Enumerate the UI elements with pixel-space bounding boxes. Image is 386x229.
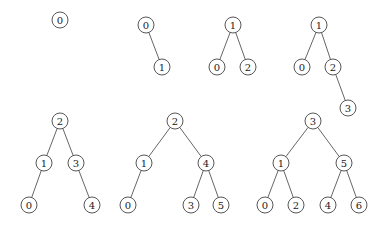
node-1: 1: [311, 17, 327, 33]
node-label: 2: [57, 116, 63, 127]
tree-6: 214035: [120, 113, 229, 213]
node-1: 1: [36, 155, 52, 171]
node-3: 3: [183, 197, 199, 213]
edge-1-0: [131, 170, 141, 197]
node-0: 0: [52, 12, 68, 28]
edge-4-3: [194, 171, 204, 198]
edge-1-0: [305, 32, 316, 59]
node-label: 4: [89, 200, 95, 211]
edge-0-1: [149, 32, 159, 59]
node-2: 2: [325, 59, 341, 75]
edge-2-1: [47, 128, 57, 155]
tree-5: 21304: [21, 113, 100, 213]
edge-2-1: [149, 127, 170, 156]
edge-3-1: [286, 127, 308, 156]
node-label: 1: [159, 62, 165, 73]
node-label: 2: [245, 62, 251, 73]
node-3: 3: [68, 155, 84, 171]
edge-3-4: [79, 170, 89, 197]
edge-1-0: [32, 171, 42, 198]
node-label: 3: [188, 200, 194, 211]
node-label: 3: [73, 158, 79, 169]
node-label: 2: [330, 62, 336, 73]
edge-2-3: [336, 75, 346, 101]
node-2: 2: [288, 197, 304, 213]
node-4: 4: [320, 197, 336, 213]
node-label: 6: [356, 200, 362, 211]
edge-5-4: [331, 170, 341, 197]
node-label: 0: [26, 200, 32, 211]
node-label: 0: [262, 200, 268, 211]
edge-1-0: [268, 170, 278, 197]
node-label: 1: [230, 20, 236, 31]
node-label: 0: [299, 62, 305, 73]
node-1: 1: [154, 59, 170, 75]
tree-diagram: 0011021023213042140353150246: [0, 0, 386, 229]
edge-3-5: [318, 127, 339, 156]
node-2: 2: [240, 59, 256, 75]
node-label: 4: [325, 200, 331, 211]
node-label: 1: [141, 158, 147, 169]
tree-2: 01: [138, 17, 170, 75]
edge-1-2: [284, 171, 294, 198]
edge-4-5: [209, 171, 219, 198]
node-label: 5: [341, 158, 347, 169]
edge-1-0: [220, 32, 230, 59]
node-3: 3: [305, 113, 321, 129]
node-0: 0: [257, 197, 273, 213]
tree-3: 102: [209, 17, 256, 75]
node-label: 1: [41, 158, 47, 169]
tree-7: 3150246: [257, 113, 367, 213]
tree-1: 0: [52, 12, 68, 28]
node-label: 0: [57, 15, 63, 26]
edge-5-6: [347, 171, 357, 198]
edge-1-2: [236, 33, 246, 60]
node-2: 2: [167, 113, 183, 129]
edge-1-2: [322, 33, 331, 60]
node-0: 0: [209, 59, 225, 75]
node-1: 1: [225, 17, 241, 33]
node-6: 6: [351, 197, 367, 213]
node-3: 3: [340, 100, 356, 116]
node-label: 2: [293, 200, 299, 211]
node-4: 4: [198, 155, 214, 171]
node-1: 1: [136, 155, 152, 171]
node-label: 1: [316, 20, 322, 31]
node-label: 1: [278, 158, 284, 169]
node-5: 5: [336, 155, 352, 171]
node-label: 0: [143, 20, 149, 31]
node-label: 0: [125, 200, 131, 211]
node-label: 3: [310, 116, 316, 127]
node-0: 0: [294, 59, 310, 75]
node-4: 4: [84, 197, 100, 213]
node-0: 0: [120, 197, 136, 213]
node-label: 2: [172, 116, 178, 127]
node-label: 4: [203, 158, 209, 169]
node-1: 1: [273, 155, 289, 171]
node-5: 5: [213, 197, 229, 213]
tree-4: 1023: [294, 17, 356, 116]
node-label: 0: [214, 62, 220, 73]
edge-2-3: [63, 128, 73, 155]
edge-2-4: [180, 127, 201, 156]
node-0: 0: [138, 17, 154, 33]
node-label: 3: [345, 103, 351, 114]
node-0: 0: [21, 197, 37, 213]
node-label: 5: [218, 200, 224, 211]
node-2: 2: [52, 113, 68, 129]
